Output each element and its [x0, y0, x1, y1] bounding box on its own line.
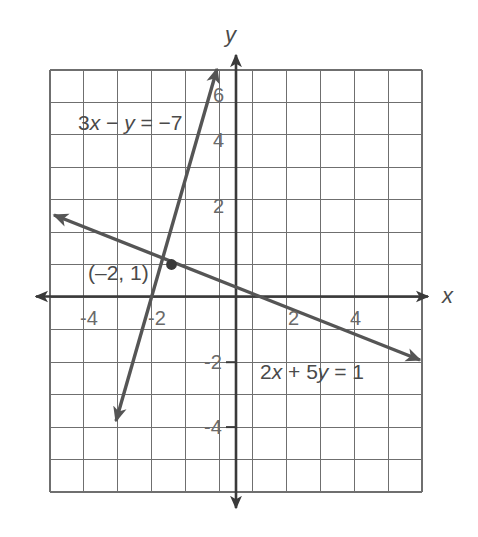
- y-tick-label-4: 4: [213, 130, 224, 150]
- eq1-equals: =: [135, 111, 159, 134]
- eq2-coef2: 5: [306, 360, 318, 383]
- eq2-rhs: 1: [352, 360, 364, 383]
- eq1-coef: 3: [78, 111, 90, 134]
- x-axis-label: x: [442, 285, 453, 307]
- equation-label-2: 2x + 5y = 1: [260, 361, 364, 382]
- intersection-point-label: (–2, 1): [88, 262, 149, 283]
- eq1-rhs: −7: [159, 111, 183, 134]
- eq2-op: +: [282, 360, 306, 383]
- eq2-coef: 2: [260, 360, 272, 383]
- y-tick-label-minus-4: -4: [204, 417, 222, 437]
- y-tick-label-6: 6: [213, 85, 224, 105]
- x-tick-label-2: 2: [288, 308, 299, 328]
- eq2-equals: =: [328, 360, 352, 383]
- eq1-op: −: [100, 111, 124, 134]
- intersection-point-marker: [166, 259, 177, 270]
- x-tick-label-minus-2: -2: [148, 308, 166, 328]
- equation-label-1: 3x − y = −7: [78, 112, 183, 133]
- eq1-var-y: y: [124, 111, 135, 134]
- eq2-var-y: y: [318, 360, 329, 383]
- x-tick-label-4: 4: [350, 308, 361, 328]
- eq2-var-x: x: [272, 360, 283, 383]
- coordinate-plane-svg: [0, 0, 478, 537]
- graph-figure: y x 3x − y = −7 2x + 5y = 1 (–2, 1) -4 -…: [0, 0, 478, 537]
- y-tick-label-minus-2: -2: [204, 352, 222, 372]
- eq1-var-x: x: [90, 111, 101, 134]
- y-axis-label: y: [225, 24, 236, 46]
- x-tick-label-minus-4: -4: [80, 308, 98, 328]
- y-tick-label-2: 2: [213, 196, 224, 216]
